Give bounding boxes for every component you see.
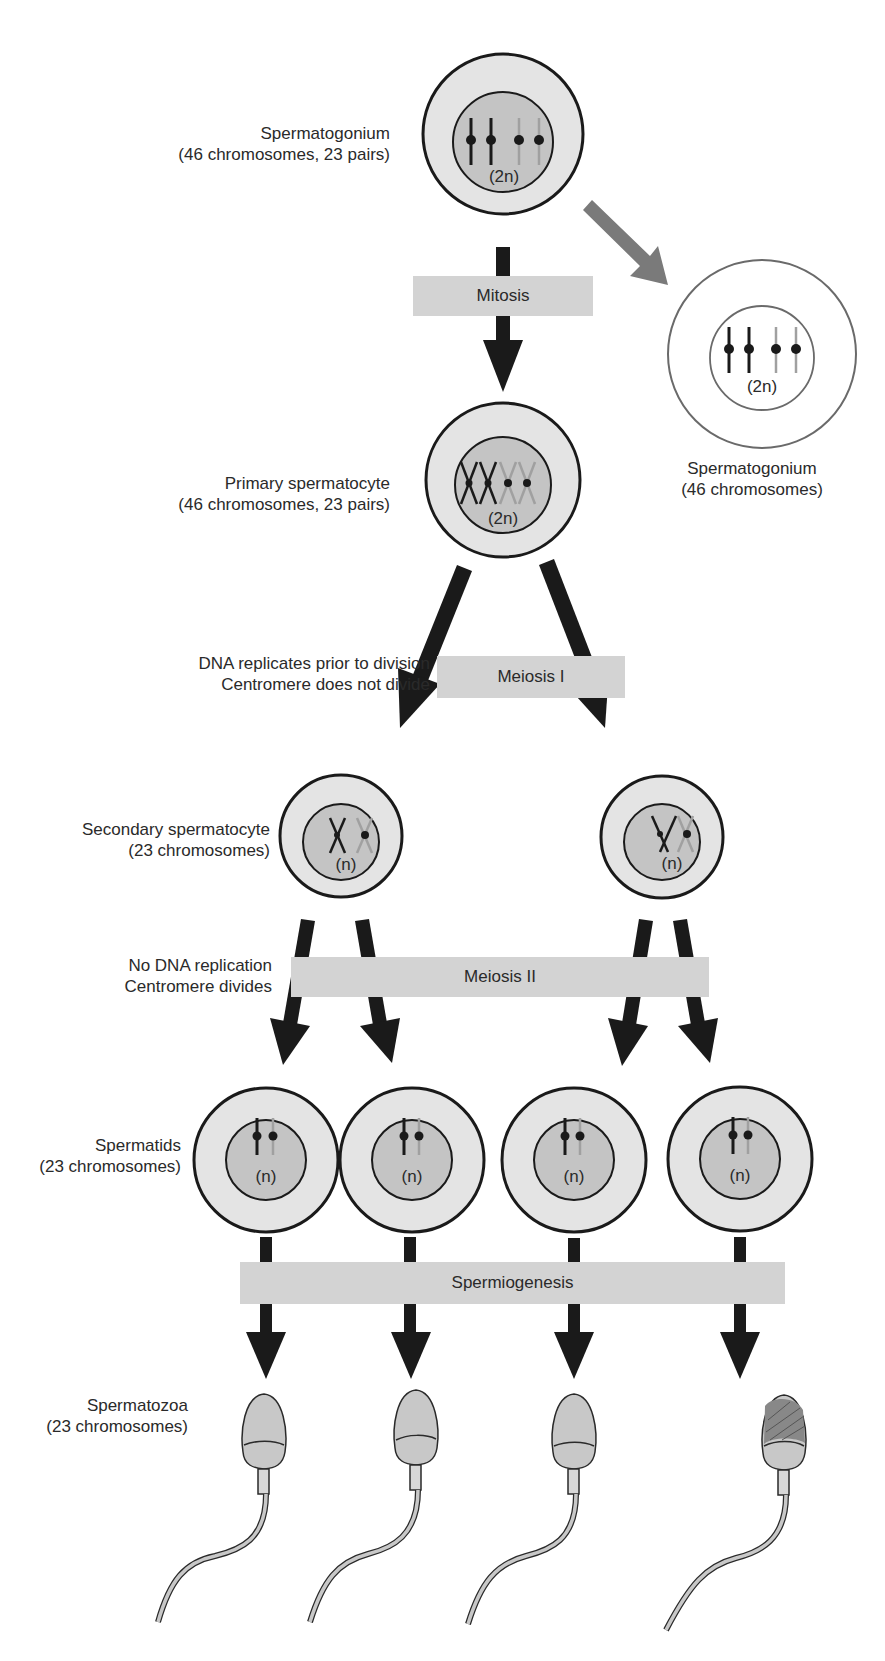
arrow-spermiogenesis-2-icon [391,1237,431,1379]
ploidy-label: (2n) [484,166,524,187]
process-band-spermiogenesis: Spermiogenesis [240,1262,785,1304]
ploidy-label: (n) [559,1166,589,1187]
arrow-mitosis-icon [483,247,523,392]
ploidy-label: (2n) [742,376,782,397]
arrow-spermiogenesis-1-icon [246,1237,286,1379]
cell-spermatid-3 [502,1088,646,1232]
cell-primary-spermatocyte [426,403,580,557]
cell-secondary-spermatocyte-left [280,775,402,897]
process-band-meiosis1: Meiosis I [437,656,625,698]
cell-spermatid-4 [668,1087,812,1231]
stage-label-primary-spermatocyte: Primary spermatocyte (46 chromosomes, 23… [100,473,390,515]
sperm-cell-2 [310,1390,438,1622]
process-band-meiosis2: Meiosis II [291,957,709,997]
arrow-meiosis1-right-icon [539,559,609,728]
cell-secondary-spermatocyte-right [601,776,723,898]
arrow-meiosis1-left-icon [398,565,472,728]
stage-label-secondary-spermatocyte: Secondary spermatocyte (23 chromosomes) [20,819,270,861]
sperm-cell-4 [666,1395,806,1630]
stage-label-spermatogonium-side: Spermatogonium (46 chromosomes) [632,458,872,500]
note-meiosis2: No DNA replication Centromere divides [40,955,272,997]
process-label-mitosis: Mitosis [477,286,530,306]
cell-spermatid-2 [340,1088,484,1232]
arrow-spermiogenesis-4-icon [720,1237,760,1379]
cell-spermatid-1 [194,1088,338,1232]
arrow-spermiogenesis-3-icon [554,1238,594,1379]
ploidy-label: (n) [251,1166,281,1187]
stage-label-spermatids: Spermatids (23 chromosomes) [0,1135,181,1177]
ploidy-label: (n) [725,1165,755,1186]
process-label-meiosis1: Meiosis I [497,667,564,687]
process-label-meiosis2: Meiosis II [464,967,536,987]
note-meiosis1: DNA replicates prior to division Centrom… [60,653,430,695]
arrow-side-icon [583,200,668,285]
sperm-cell-3 [468,1394,596,1624]
stage-label-spermatozoa: Spermatozoa (23 chromosomes) [0,1395,188,1437]
process-band-mitosis: Mitosis [413,276,593,316]
stage-label-spermatogonium: Spermatogonium (46 chromosomes, 23 pairs… [100,123,390,165]
cell-spermatogonium-side [668,260,856,448]
cell-spermatogonium [423,54,583,214]
process-label-spermiogenesis: Spermiogenesis [452,1273,574,1293]
ploidy-label: (n) [397,1166,427,1187]
ploidy-label: (n) [657,853,687,874]
ploidy-label: (n) [331,854,361,875]
ploidy-label: (2n) [483,508,523,529]
